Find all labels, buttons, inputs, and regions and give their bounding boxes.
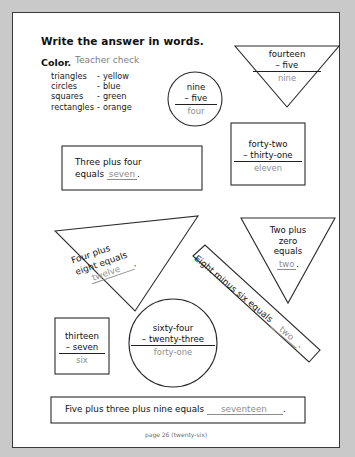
answer-blank: seventeen bbox=[207, 404, 283, 415]
period: . bbox=[296, 259, 299, 269]
minuend: sixty-four bbox=[129, 323, 217, 334]
answer-blank: seven bbox=[107, 169, 137, 180]
problem-triangle-two-plus-zero: Two plus zero equals two. bbox=[253, 225, 323, 269]
subtrahend-line: – seven bbox=[57, 342, 107, 353]
sum-rule bbox=[234, 161, 302, 162]
operator: – bbox=[66, 342, 70, 352]
problem-rect-bottom: Five plus three plus nine equals sevente… bbox=[65, 404, 295, 416]
subtrahend-line: – five bbox=[173, 93, 219, 104]
problem-rect-three-plus-four: Three plus four equals seven. bbox=[75, 157, 195, 180]
sentence-line-2: equals seven. bbox=[75, 169, 195, 181]
answer: nine bbox=[251, 73, 323, 84]
minuend: thirteen bbox=[57, 331, 107, 342]
sentence-line-1: Two plus bbox=[253, 225, 323, 236]
subtrahend-line: – five bbox=[251, 60, 323, 71]
subtrahend: seven bbox=[73, 342, 99, 352]
problem-circle-nine: nine – five four bbox=[173, 82, 219, 116]
problem-circle-sixtyfour: sixty-four – twenty-three forty-one bbox=[129, 323, 217, 357]
answer-line: two. bbox=[253, 257, 323, 270]
equals-word: equals bbox=[75, 169, 104, 179]
operator: – bbox=[276, 60, 280, 70]
sum-rule bbox=[175, 104, 217, 105]
worksheet-page: Write the answer in words. Color. Teache… bbox=[12, 12, 340, 448]
sum-rule bbox=[253, 71, 321, 72]
problem-triangle-fourteen: fourteen – five nine bbox=[251, 49, 323, 83]
period: . bbox=[283, 404, 286, 414]
minuend: fourteen bbox=[251, 49, 323, 60]
operator: – bbox=[243, 150, 247, 160]
subtrahend-line: – thirty-one bbox=[232, 150, 304, 161]
answer: eleven bbox=[232, 163, 304, 174]
operator: – bbox=[142, 334, 146, 344]
minuend: nine bbox=[173, 82, 219, 93]
page-footer: page 26 (twenty-six) bbox=[13, 431, 339, 438]
problem-square-fortytwo: forty-two – thirty-one eleven bbox=[232, 139, 304, 173]
sentence-text: Five plus three plus nine equals bbox=[65, 404, 204, 414]
subtrahend: five bbox=[283, 60, 299, 70]
sum-rule bbox=[59, 353, 105, 354]
sentence-line-3: equals bbox=[253, 246, 323, 257]
subtrahend-line: – twenty-three bbox=[129, 334, 217, 345]
minuend: forty-two bbox=[232, 139, 304, 150]
sentence-line-1: Three plus four bbox=[75, 157, 195, 169]
sentence-line-2: zero bbox=[253, 236, 323, 247]
sum-rule bbox=[131, 345, 215, 346]
answer: forty-one bbox=[129, 347, 217, 358]
problem-square-thirteen: thirteen – seven six bbox=[57, 331, 107, 365]
answer: four bbox=[173, 106, 219, 117]
period: . bbox=[137, 169, 140, 179]
operator: – bbox=[185, 93, 189, 103]
answer-blank: two bbox=[277, 259, 296, 270]
subtrahend: twenty-three bbox=[149, 334, 204, 344]
answer: six bbox=[57, 355, 107, 366]
subtrahend: thirty-one bbox=[250, 150, 292, 160]
subtrahend: five bbox=[192, 93, 208, 103]
